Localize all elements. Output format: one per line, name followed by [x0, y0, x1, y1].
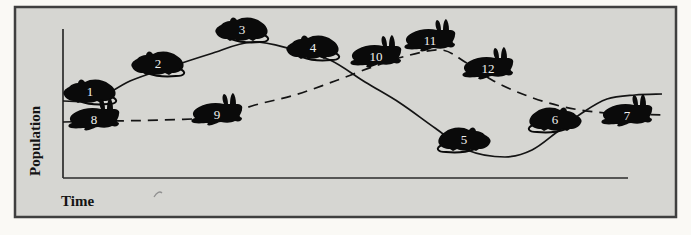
- marker-number: 4: [310, 40, 317, 55]
- marker-number: 3: [239, 22, 246, 37]
- marker-number: 5: [461, 132, 468, 147]
- marker-number: 9: [214, 107, 221, 122]
- y-axis-label: Population: [27, 105, 43, 176]
- marker-number: 8: [91, 112, 98, 127]
- marker-number: 12: [482, 61, 495, 76]
- x-axis-label: Time: [61, 193, 94, 209]
- marker-number: 10: [370, 49, 383, 64]
- marker-number: 1: [87, 84, 94, 99]
- marker-number: 7: [624, 108, 631, 123]
- population-time-chart: 123456789101112PopulationTime: [0, 0, 691, 235]
- population-cycles-figure: 123456789101112PopulationTime: [0, 0, 691, 235]
- marker-number: 6: [552, 112, 559, 127]
- marker-number: 2: [155, 56, 162, 71]
- marker-number: 11: [424, 33, 437, 48]
